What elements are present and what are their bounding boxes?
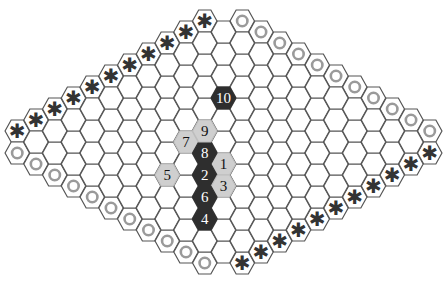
hex-board-svg: ✱✱✱✱✱✱✱✱✱✱✱✱✱✱✱✱✱✱✱✱✱✱ 12345678910: [0, 0, 446, 284]
star-icon: ✱: [309, 207, 326, 231]
star-icon: ✱: [196, 9, 213, 33]
stone-move-9: 9: [193, 120, 217, 142]
hex-board: ✱✱✱✱✱✱✱✱✱✱✱✱✱✱✱✱✱✱✱✱✱✱ 12345678910: [0, 0, 446, 284]
star-icon: ✱: [103, 64, 120, 88]
stone-move-6: 6: [193, 186, 217, 208]
star-icon: ✱: [178, 20, 195, 44]
star-icon: ✱: [28, 108, 45, 132]
star-icon: ✱: [421, 141, 438, 165]
stone-move-10: 10: [211, 87, 235, 109]
star-icon: ✱: [253, 240, 270, 264]
stone-move-4: 4: [193, 208, 217, 230]
board-cells: [24, 21, 423, 263]
star-icon: ✱: [384, 163, 401, 187]
stone-move-8: 8: [193, 142, 217, 164]
star-icon: ✱: [346, 185, 363, 209]
star-icon: ✱: [365, 174, 382, 198]
star-icon: ✱: [403, 152, 420, 176]
star-icon: ✱: [84, 75, 101, 99]
move-number: 9: [201, 123, 209, 139]
move-number: 5: [164, 167, 172, 183]
star-icon: ✱: [140, 42, 157, 66]
move-number: 3: [220, 178, 228, 194]
move-number: 7: [182, 134, 190, 150]
star-icon: ✱: [271, 229, 288, 253]
move-number: 2: [201, 167, 209, 183]
move-number: 10: [216, 90, 231, 106]
move-number: 6: [201, 189, 209, 205]
star-icon: ✱: [234, 251, 251, 275]
move-number: 8: [201, 145, 209, 161]
star-icon: ✱: [65, 86, 82, 110]
star-icon: ✱: [328, 196, 345, 220]
star-icon: ✱: [9, 119, 26, 143]
star-icon: ✱: [121, 53, 138, 77]
empty-cell[interactable]: [399, 131, 423, 153]
star-icon: ✱: [159, 31, 176, 55]
star-icon: ✱: [290, 218, 307, 242]
star-icon: ✱: [46, 97, 63, 121]
stone-move-5: 5: [155, 164, 179, 186]
move-number: 4: [201, 211, 209, 227]
move-number: 1: [220, 156, 228, 172]
